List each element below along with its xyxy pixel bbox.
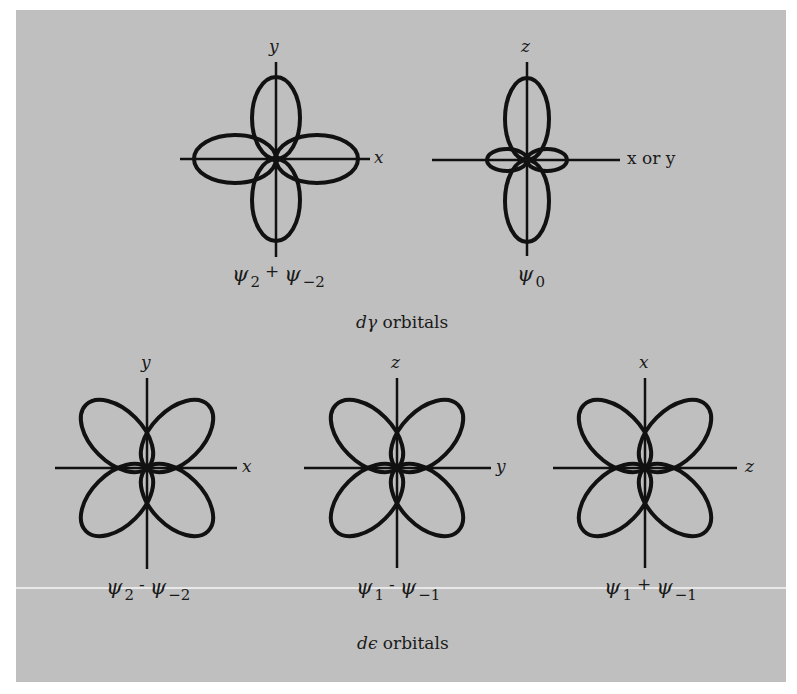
subscript: 2 — [124, 586, 134, 604]
orbital-psi2-plus-psi-minus2 — [180, 62, 370, 257]
caption-d-epsilon-orbitals: dϵ orbitals — [357, 633, 449, 653]
axis-label-z: z — [521, 36, 530, 56]
axis-label-y: y — [269, 36, 279, 56]
formula-psi2-minus-psi-minus2: ψ2-ψ−2 — [106, 575, 190, 599]
operator: - — [139, 574, 145, 594]
axis-label-z: z — [391, 352, 400, 372]
psi-symbol: ψ — [150, 575, 166, 599]
psi-symbol: ψ — [656, 575, 672, 599]
subscript: −2 — [168, 586, 190, 604]
orbital-psi1-minus-psi-minus1 — [304, 378, 491, 568]
formula-psi1-minus-psi-minus1: ψ1-ψ−1 — [356, 575, 440, 599]
axis-label-x: x — [242, 456, 252, 476]
formula-psi0: ψ0 — [517, 262, 545, 286]
axis-label-x: x — [374, 147, 384, 167]
operator: + — [637, 574, 651, 594]
psi-symbol: ψ — [517, 262, 533, 286]
axis-label-x-or-y: x or y — [627, 148, 675, 168]
subscript: 1 — [622, 586, 632, 604]
caption-text: orbitals — [383, 633, 449, 653]
orbital-psi1-plus-psi-minus1 — [553, 378, 737, 568]
psi-symbol: ψ — [400, 575, 416, 599]
psi-symbol: ψ — [604, 575, 620, 599]
psi-symbol: ψ — [106, 575, 122, 599]
subscript: 0 — [535, 273, 545, 291]
axis-label-z: z — [745, 456, 754, 476]
axis-label-y: y — [141, 352, 151, 372]
caption-symbol: dϵ — [357, 633, 377, 653]
psi-symbol: ψ — [232, 262, 248, 286]
operator: + — [265, 261, 279, 281]
axis-label-x: x — [639, 352, 649, 372]
operator: - — [389, 574, 395, 594]
caption-d-gamma-orbitals: dγ orbitals — [356, 312, 448, 332]
psi-symbol: ψ — [356, 575, 372, 599]
orbital-psi0 — [432, 62, 620, 256]
formula-psi1-plus-psi-minus1: ψ1+ψ−1 — [604, 575, 697, 599]
subscript: 1 — [374, 586, 384, 604]
axis-label-y: y — [496, 456, 506, 476]
subscript: −2 — [303, 273, 325, 291]
subscript: 2 — [250, 273, 260, 291]
psi-symbol: ψ — [284, 262, 300, 286]
caption-text: orbitals — [382, 312, 448, 332]
caption-symbol: dγ — [356, 312, 377, 332]
subscript: −1 — [675, 586, 697, 604]
subscript: −1 — [418, 586, 440, 604]
formula-psi2-plus-psi-minus2: ψ2+ψ−2 — [232, 262, 325, 286]
orbital-psi2-minus-psi-minus2 — [55, 378, 237, 569]
